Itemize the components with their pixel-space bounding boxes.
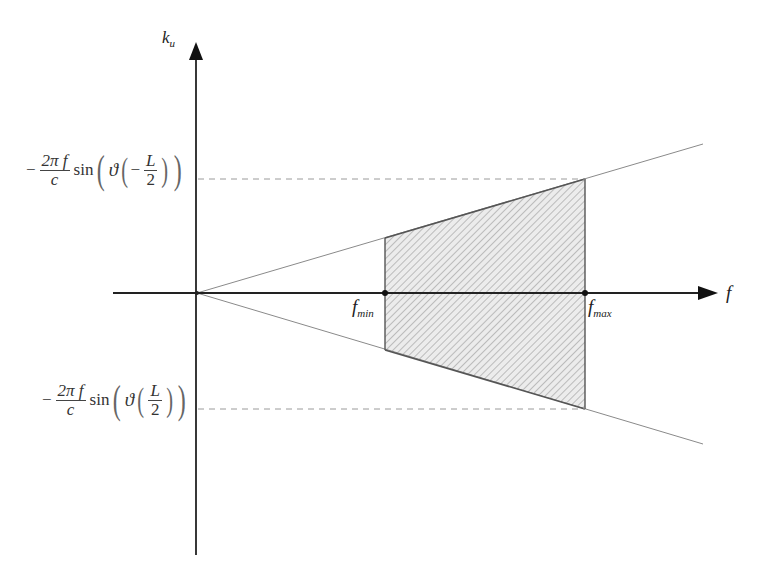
lower-inner-fraction: L 2	[148, 382, 161, 419]
lower-close-paren: )	[178, 380, 186, 420]
f-axis-label-text: f	[726, 282, 731, 303]
ku-main: k	[162, 28, 170, 47]
diagram-canvas	[0, 0, 765, 581]
lower-sin: sin	[90, 390, 110, 410]
lower-inner-close-paren: )	[166, 383, 173, 417]
upper-sin: sin	[74, 160, 94, 180]
horizontal-axis-arrow-icon	[698, 286, 718, 300]
f-min-sub: min	[357, 307, 374, 319]
upper-inner-close-paren: )	[162, 153, 169, 187]
vertical-axis-arrow-icon	[189, 42, 203, 60]
lower-frac-num: 2π f	[56, 382, 86, 401]
vertical-axis-label: ku	[162, 28, 175, 48]
f-max-sub: max	[593, 307, 611, 319]
upper-theta: ϑ	[109, 159, 118, 181]
upper-sign: −	[26, 160, 36, 180]
upper-inner-fraction: L 2	[144, 152, 157, 189]
upper-bound-formula: − 2π f c sin ( ϑ ( − L 2 ) )	[26, 150, 184, 190]
upper-fraction: 2π f c	[40, 152, 70, 189]
lower-sign: −	[42, 390, 52, 410]
lower-inner-den: 2	[151, 401, 160, 419]
lower-inner-num: L	[148, 382, 161, 401]
horizontal-axis-label: f	[726, 282, 731, 304]
lower-frac-den: c	[67, 401, 75, 419]
upper-close-paren: )	[173, 150, 181, 190]
f-min-point	[382, 290, 388, 296]
lower-inner-open-paren: (	[137, 383, 144, 417]
lower-bound-formula: − 2π f c sin ( ϑ ( L 2 ) )	[42, 380, 189, 420]
lower-theta: ϑ	[125, 389, 134, 411]
f-max-label: fmax	[588, 296, 612, 318]
f-min-label: fmin	[352, 296, 374, 318]
origin-point	[195, 291, 199, 295]
upper-inner-den: 2	[147, 171, 156, 189]
ku-sub: u	[170, 37, 176, 49]
lower-fraction: 2π f c	[56, 382, 86, 419]
upper-inner-num: L	[144, 152, 157, 171]
upper-open-paren: (	[97, 150, 105, 190]
support-region	[385, 179, 585, 409]
upper-frac-num: 2π f	[40, 152, 70, 171]
upper-inner-sign: −	[130, 160, 140, 180]
upper-frac-den: c	[51, 171, 59, 189]
lower-open-paren: (	[113, 380, 121, 420]
upper-inner-open-paren: (	[121, 153, 128, 187]
